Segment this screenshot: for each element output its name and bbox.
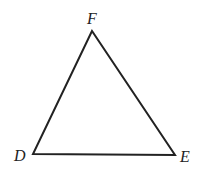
vertex-label-f: F xyxy=(86,10,97,27)
triangle-def xyxy=(33,31,175,155)
vertex-label-d: D xyxy=(13,147,26,164)
triangle-diagram: F D E xyxy=(0,0,202,184)
vertex-label-e: E xyxy=(179,148,190,165)
triangle-svg: F D E xyxy=(0,0,202,184)
